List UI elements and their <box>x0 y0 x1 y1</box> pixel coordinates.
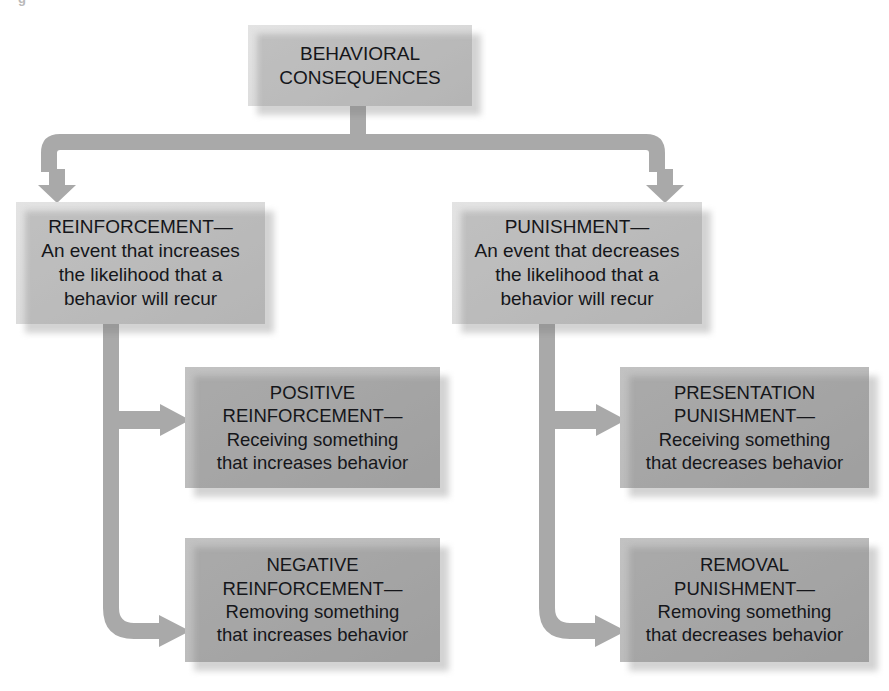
node-line: that decreases behavior <box>646 451 843 474</box>
node-line: Removing something <box>658 600 832 623</box>
node-line: REINFORCEMENT— <box>223 404 403 427</box>
node-line: the likelihood that a <box>59 263 223 287</box>
node-presentation-punishment[interactable]: PRESENTATION PUNISHMENT— Receiving somet… <box>620 367 869 488</box>
node-line: PUNISHMENT— <box>674 404 815 427</box>
node-line: REINFORCEMENT— <box>223 577 403 600</box>
node-behavioral-consequences[interactable]: BEHAVIORAL CONSEQUENCES <box>248 25 472 106</box>
node-line: behavior will recur <box>500 287 653 311</box>
node-removal-punishment[interactable]: REMOVAL PUNISHMENT— Removing something t… <box>620 538 869 662</box>
node-positive-reinforcement[interactable]: POSITIVE REINFORCEMENT— Receiving someth… <box>185 367 440 488</box>
node-line: REINFORCEMENT— <box>48 215 233 239</box>
node-line: that increases behavior <box>217 623 408 646</box>
node-line: that increases behavior <box>217 451 408 474</box>
node-line: REMOVAL <box>700 553 789 576</box>
node-line: An event that increases <box>41 239 240 263</box>
node-line: PUNISHMENT— <box>674 577 815 600</box>
node-line: CONSEQUENCES <box>279 66 441 90</box>
node-line: Removing something <box>226 600 400 623</box>
node-line: Receiving something <box>659 428 831 451</box>
node-line: PUNISHMENT— <box>505 215 650 239</box>
cropped-caption-sliver: g <box>0 0 889 14</box>
node-punishment[interactable]: PUNISHMENT— An event that decreases the … <box>452 202 702 324</box>
node-line: An event that decreases <box>475 239 680 263</box>
node-reinforcement[interactable]: REINFORCEMENT— An event that increases t… <box>16 202 265 324</box>
node-line: the likelihood that a <box>495 263 659 287</box>
node-line: POSITIVE <box>270 381 355 404</box>
node-line: behavior will recur <box>64 287 217 311</box>
node-negative-reinforcement[interactable]: NEGATIVE REINFORCEMENT— Removing somethi… <box>185 538 440 662</box>
node-line: BEHAVIORAL <box>300 42 420 66</box>
caption-marker: g <box>18 0 26 6</box>
node-line: PRESENTATION <box>674 381 815 404</box>
diagram-canvas: g <box>0 0 889 691</box>
node-line: that decreases behavior <box>646 623 843 646</box>
node-line: Receiving something <box>227 428 399 451</box>
node-line: NEGATIVE <box>266 553 358 576</box>
